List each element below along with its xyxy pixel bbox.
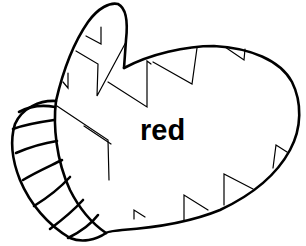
color-word-label: red [140, 114, 220, 146]
mitten-cuff [12, 101, 106, 241]
mitten-coloring-page: red [0, 0, 306, 246]
